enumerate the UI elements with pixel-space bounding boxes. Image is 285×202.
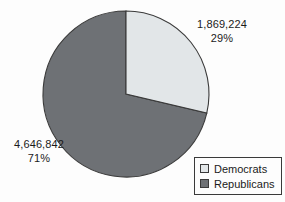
legend-swatch-republicans xyxy=(200,179,209,188)
pie-label-republicans: 4,646,842 71% xyxy=(2,138,76,165)
pie-label-republicans-percent: 71% xyxy=(2,152,76,166)
pie-chart-figure: 1,869,224 29% 4,646,842 71% Democrats Re… xyxy=(0,0,285,202)
pie-label-democrats-value: 1,869,224 xyxy=(176,18,268,32)
pie-label-republicans-value: 4,646,842 xyxy=(2,138,76,152)
pie-label-democrats: 1,869,224 29% xyxy=(176,18,268,45)
legend-label-democrats: Democrats xyxy=(214,163,267,175)
legend-item-democrats[interactable]: Democrats xyxy=(200,162,275,175)
legend-label-republicans: Republicans xyxy=(214,178,275,190)
legend-swatch-democrats xyxy=(200,164,209,173)
legend-item-republicans[interactable]: Republicans xyxy=(200,177,275,190)
pie-label-democrats-percent: 29% xyxy=(176,32,268,46)
chart-legend: Democrats Republicans xyxy=(194,157,282,195)
